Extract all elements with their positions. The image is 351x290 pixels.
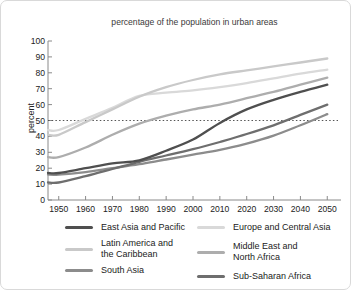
legend-item: Middle East and North Africa bbox=[197, 241, 317, 263]
y-tick-label: 40 bbox=[19, 131, 45, 141]
x-tick-label: 1950 bbox=[44, 204, 74, 214]
plot-svg bbox=[1, 1, 351, 216]
y-tick-label: 80 bbox=[19, 68, 45, 78]
x-tick-label: 2050 bbox=[312, 204, 342, 214]
y-tick-label: 0 bbox=[19, 195, 45, 205]
y-tick-label: 30 bbox=[19, 147, 45, 157]
x-tick-label: 2040 bbox=[285, 204, 315, 214]
legend-item: South Asia bbox=[65, 265, 144, 276]
legend-label: East Asia and Pacific bbox=[101, 222, 185, 233]
x-tick-label: 1960 bbox=[71, 204, 101, 214]
legend-item: Sub-Saharan Africa bbox=[197, 271, 311, 282]
legend-label: Europe and Central Asia bbox=[233, 222, 331, 233]
x-tick-label: 1970 bbox=[97, 204, 127, 214]
legend-swatch bbox=[197, 226, 225, 229]
legend-label: Latin America and the Caribbean bbox=[101, 238, 185, 260]
legend-swatch bbox=[65, 269, 93, 272]
legend-label: Middle East and North Africa bbox=[233, 241, 317, 263]
chart-card: percentage of the population in urban ar… bbox=[0, 0, 351, 290]
y-tick-label: 70 bbox=[19, 84, 45, 94]
legend-item: Latin America and the Caribbean bbox=[65, 238, 185, 260]
legend-label: Sub-Saharan Africa bbox=[233, 271, 311, 282]
x-tick-label: 2030 bbox=[259, 204, 289, 214]
series-line-east-asia-and-pacific bbox=[48, 85, 327, 174]
y-tick-label: 20 bbox=[19, 163, 45, 173]
legend-label: South Asia bbox=[101, 265, 144, 276]
y-tick-label: 10 bbox=[19, 179, 45, 189]
legend-swatch bbox=[65, 248, 93, 251]
legend-column-left: East Asia and PacificLatin America and t… bbox=[65, 222, 185, 281]
y-tick-label: 90 bbox=[19, 52, 45, 62]
y-tick-label: 50 bbox=[19, 116, 45, 126]
legend-item: Europe and Central Asia bbox=[197, 222, 331, 233]
x-tick-label: 2020 bbox=[232, 204, 262, 214]
x-tick-label: 2000 bbox=[178, 204, 208, 214]
x-tick-label: 2010 bbox=[205, 204, 235, 214]
legend-swatch bbox=[65, 226, 93, 229]
y-tick-label: 60 bbox=[19, 100, 45, 110]
legend-swatch bbox=[197, 275, 225, 278]
x-tick-label: 1990 bbox=[151, 204, 181, 214]
legend-item: East Asia and Pacific bbox=[65, 222, 185, 233]
y-tick-label: 100 bbox=[19, 36, 45, 46]
x-tick-label: 1980 bbox=[124, 204, 154, 214]
legend-column-right: Europe and Central AsiaMiddle East and N… bbox=[197, 222, 331, 290]
legend-swatch bbox=[197, 251, 225, 254]
